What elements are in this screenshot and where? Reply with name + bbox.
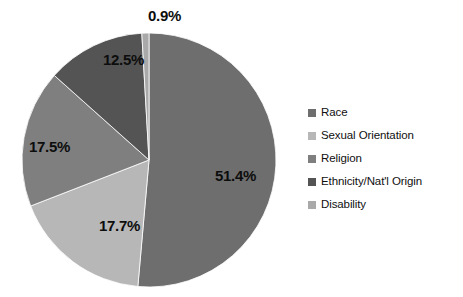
pie-slice-value-label: 17.5% bbox=[29, 139, 70, 154]
pie-plot-area: 51.4%17.7%17.5%12.5%0.9% bbox=[0, 0, 300, 297]
legend-swatch-icon bbox=[308, 132, 316, 140]
pie-chart-figure: 51.4%17.7%17.5%12.5%0.9% Race Sexual Ori… bbox=[0, 0, 463, 297]
list-item: Ethnicity/Nat'l Origin bbox=[308, 172, 460, 191]
legend-item-label: Religion bbox=[321, 153, 362, 165]
pie-slice-value-label: 12.5% bbox=[103, 52, 144, 67]
legend: Race Sexual Orientation Religion Ethnici… bbox=[308, 103, 460, 218]
legend-item-label: Race bbox=[321, 107, 347, 119]
list-item: Religion bbox=[308, 149, 460, 168]
legend-swatch-icon bbox=[308, 109, 316, 117]
list-item: Race bbox=[308, 103, 460, 122]
pie-slice-group bbox=[22, 33, 276, 287]
legend-swatch-icon bbox=[308, 201, 316, 209]
pie-slice-value-label: 17.7% bbox=[99, 218, 140, 233]
pie-slice-value-label: 0.9% bbox=[148, 8, 181, 23]
legend-item-label: Ethnicity/Nat'l Origin bbox=[321, 176, 422, 188]
pie-slice bbox=[138, 33, 276, 287]
legend-item-label: Sexual Orientation bbox=[321, 130, 414, 142]
legend-item-label: Disability bbox=[321, 199, 366, 211]
legend-swatch-icon bbox=[308, 178, 316, 186]
legend-swatch-icon bbox=[308, 155, 316, 163]
list-item: Disability bbox=[308, 195, 460, 214]
list-item: Sexual Orientation bbox=[308, 126, 460, 145]
pie-slice-value-label: 51.4% bbox=[215, 168, 256, 183]
